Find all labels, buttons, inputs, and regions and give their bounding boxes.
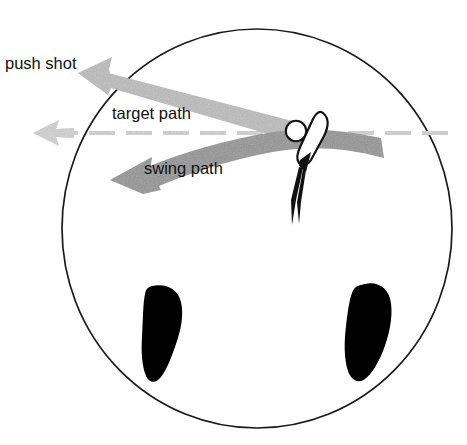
golf-diagram-figure: push shot target path swing path (0, 0, 467, 445)
target-line-arrowhead (33, 120, 74, 146)
label-push-shot: push shot (5, 55, 77, 72)
right-shoe-print (345, 283, 392, 381)
push-shot-arrow (78, 57, 292, 141)
label-swing-path: swing path (144, 160, 223, 177)
push-shot-arrowhead (78, 57, 112, 95)
label-target-path: target path (112, 105, 191, 122)
left-shoe-print (142, 285, 183, 382)
